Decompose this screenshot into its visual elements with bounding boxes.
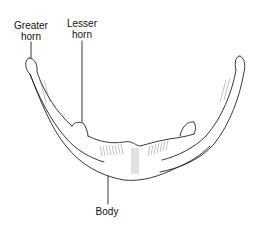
body-top-edge [88,134,194,146]
shading [40,78,230,174]
hyoid-bone-illustration [0,0,259,231]
right-greater-horn-inner [160,56,245,172]
left-lesser-horn [72,122,88,136]
right-greater-horn-outer [162,56,240,160]
left-greater-horn-inner [29,58,72,126]
